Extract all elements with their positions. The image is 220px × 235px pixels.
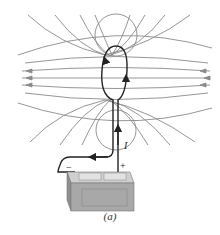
figure-caption: (a) <box>0 210 220 222</box>
plus-terminal-label: + <box>120 160 126 171</box>
minus-terminal-label: − <box>66 162 72 173</box>
magnetic-field-lines <box>18 14 212 150</box>
current-label: I <box>124 140 127 151</box>
field-diagram <box>0 0 220 235</box>
battery <box>67 172 134 211</box>
